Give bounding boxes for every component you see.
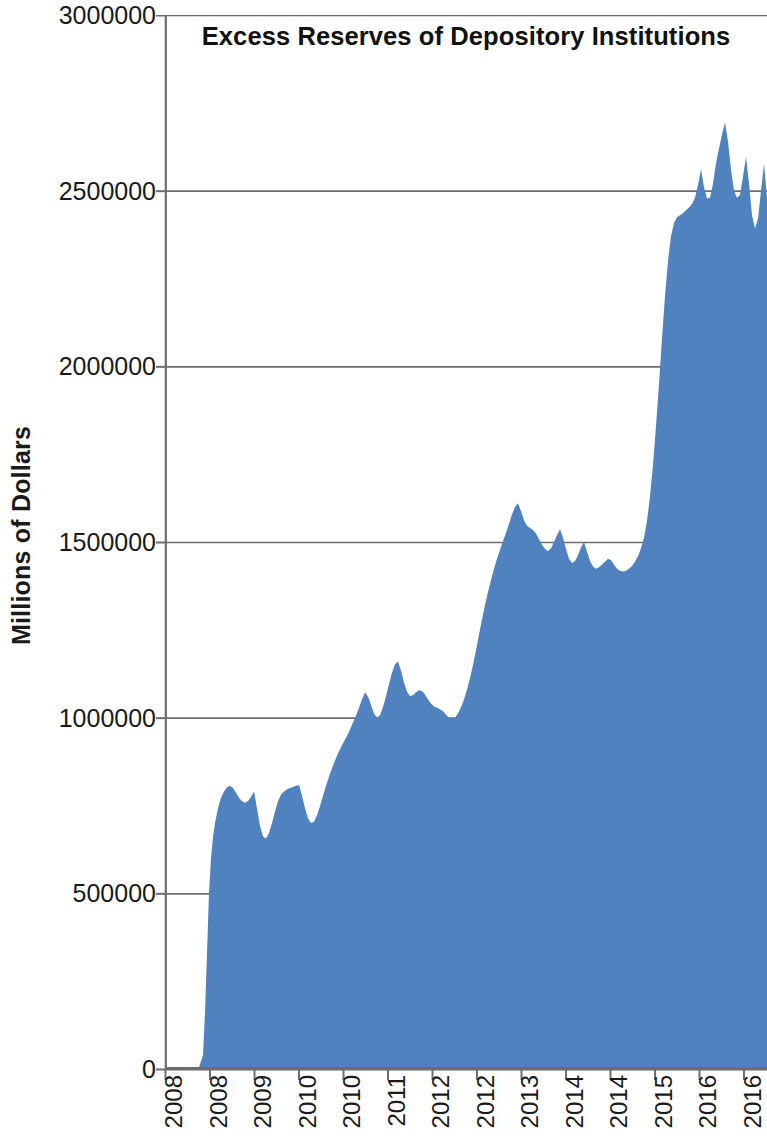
x-axis-tick-label-text: 2010 xyxy=(338,1075,366,1128)
y-axis-tick-label: 1500000 xyxy=(0,528,156,557)
x-axis-tick-labels: 2008200820092010201020112012201220132014… xyxy=(0,1075,767,1144)
x-axis-tick-label-text: 2014 xyxy=(561,1075,589,1128)
x-axis-tick-label-text: 2008 xyxy=(205,1075,233,1128)
y-axis-tick-labels: 0500000100000015000002000000250000030000… xyxy=(0,0,156,1144)
x-axis-tick-label-text: 2014 xyxy=(605,1075,633,1128)
y-axis-tick-label: 2500000 xyxy=(0,176,156,205)
y-axis-tick-label: 3000000 xyxy=(0,1,156,30)
y-axis-tick-label: 500000 xyxy=(0,879,156,908)
plot-area xyxy=(153,15,755,1069)
x-axis-tick-label-text: 2012 xyxy=(472,1075,500,1128)
x-axis-tick-label-text: 2008 xyxy=(160,1075,188,1128)
x-axis-tick-label-text: 2010 xyxy=(294,1075,322,1128)
x-axis-tick-label-text: 2012 xyxy=(427,1075,455,1128)
area-series xyxy=(165,123,767,1069)
x-axis-tick-label-text: 2009 xyxy=(249,1075,277,1128)
x-axis-tick-label-text: 2016 xyxy=(739,1075,767,1128)
chart-figure: Millions of Dollars 05000001000000150000… xyxy=(0,0,767,1144)
area-chart-svg xyxy=(153,15,767,1083)
x-axis-tick-label-text: 2016 xyxy=(694,1075,722,1128)
x-axis-tick-label-text: 2015 xyxy=(650,1075,678,1128)
x-axis-tick-label-text: 2013 xyxy=(516,1075,544,1128)
y-axis-tick-label: 2000000 xyxy=(0,352,156,381)
chart-title: Excess Reserves of Depository Institutio… xyxy=(165,22,767,51)
y-axis-tick-label: 1000000 xyxy=(0,703,156,732)
x-axis-tick-label-text: 2011 xyxy=(383,1075,411,1127)
